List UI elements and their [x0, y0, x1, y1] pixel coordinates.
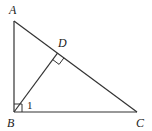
right-angle-mark-d: [53, 58, 64, 65]
label-b: B: [7, 116, 15, 130]
label-d: D: [57, 36, 67, 50]
angle-1-label: 1: [27, 99, 33, 111]
label-c: C: [136, 116, 145, 130]
segment-bd: [14, 53, 58, 112]
geometry-diagram: A D B C 1: [0, 0, 152, 131]
label-a: A: [8, 3, 17, 17]
